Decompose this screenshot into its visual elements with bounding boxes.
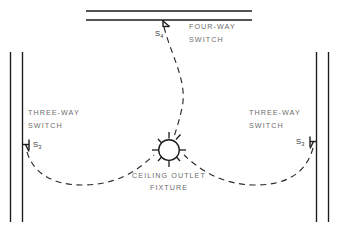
ceiling-outlet-fixture-symbol[interactable] [152,132,186,167]
three-way-switch-right-label-line1: THREE-WAY [249,108,301,117]
right-three-way-subscript: 3 [301,141,304,147]
four-way-switch-subscript: 4 [160,33,163,39]
three-way-switch-right-label-line2: SWITCH [249,121,284,130]
fixture-ray-ne [176,135,181,140]
four-way-switch-bar [163,21,170,27]
four-way-switch-symbol[interactable] [163,20,170,27]
three-way-switch-left-label-line1: THREE-WAY [28,108,80,117]
four-way-switch-label-line2: SWITCH [189,35,224,44]
left-three-way-subscript: 3 [38,144,41,150]
top-wall [86,11,252,20]
wiring-diagram-canvas: S 4 S 3 S 3 [0,0,339,234]
right-wall [317,52,329,222]
three-way-switch-left-label-line2: SWITCH [28,121,63,130]
fixture-body-circle [159,140,180,161]
wire-left-three-way-to-fixture [27,152,154,185]
ceiling-outlet-fixture-label-line1: CEILING OUTLET [132,171,206,180]
three-way-switch-symbol-right[interactable] [310,137,317,149]
wire-four-way-to-fixture [164,27,183,137]
ceiling-outlet-fixture-label-line2: FIXTURE [150,183,188,192]
three-way-switch-symbol-left[interactable] [23,140,30,152]
wiring-diagram-svg: S 4 S 3 S 3 [0,0,339,234]
left-wall [11,52,23,222]
four-way-switch-label-line1: FOUR-WAY [189,22,236,31]
